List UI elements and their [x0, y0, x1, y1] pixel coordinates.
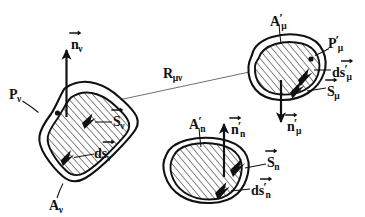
loop-nu-center-point — [55, 110, 60, 115]
loop-mu-group — [248, 25, 331, 123]
loop-mu-inner-boundary — [255, 42, 320, 95]
label-n-mu-prime: n′μ — [287, 116, 301, 136]
label-A-nu: Aν — [49, 197, 63, 216]
label-A-mu-prime: A′μ — [270, 11, 287, 31]
loop-nu-leader-A — [57, 184, 63, 199]
label-ds-nu: dsν — [94, 145, 111, 164]
label-n-n-prime: n′n — [231, 119, 245, 139]
label-n-nu: nν — [71, 36, 83, 55]
label-S-n: Sn — [267, 154, 280, 173]
loop-mu-center-point — [308, 56, 313, 61]
label-S-mu: Sμ — [327, 83, 340, 102]
loop-nu-leader-P — [23, 101, 39, 113]
label-ds-n-prime: ds′n — [251, 180, 271, 200]
label-R-munu: Rμν — [163, 65, 182, 84]
label-ds-mu-prime: ds′μ — [332, 62, 352, 82]
label-P-nu: Pν — [9, 86, 21, 105]
label-P-mu-prime: P′μ — [328, 33, 343, 53]
physics-loop-diagram: nν Pν Sν dsν Aν Rμν A′μ P′μ ds′μ Sμ n′μ … — [0, 0, 365, 217]
label-A-n-prime: A′n — [189, 114, 206, 134]
diagram-linework — [0, 0, 365, 217]
label-S-nu: Sν — [113, 113, 125, 132]
